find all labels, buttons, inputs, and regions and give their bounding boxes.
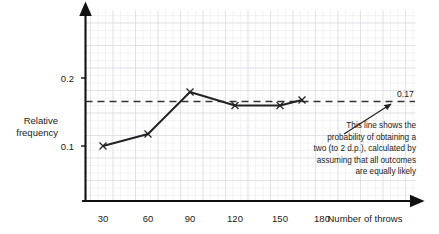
annotation-line-2: two (to 2 d.p.), calculated by bbox=[314, 144, 417, 153]
annotation-line-0: This line shows the bbox=[346, 121, 416, 130]
y-tick-label-1: 0.2 bbox=[61, 73, 74, 84]
y-axis-label-line2: frequency bbox=[16, 127, 58, 138]
y-tick-label-0: 0.1 bbox=[61, 141, 74, 152]
annotation-line-1: probability of obtaining a bbox=[327, 133, 416, 142]
x-tick-label-1: 60 bbox=[143, 213, 154, 224]
annotation-line-4: are equally likely bbox=[355, 167, 416, 176]
x-tick-label-0: 30 bbox=[98, 213, 109, 224]
x-axis-label: Number of throws bbox=[328, 213, 403, 224]
x-tick-label-3: 120 bbox=[227, 213, 243, 224]
relative-frequency-chart: 0.17 0.1 0.2 Relative frequency 30 60 90… bbox=[0, 0, 439, 234]
x-tick-label-2: 90 bbox=[185, 213, 196, 224]
y-axis-label-line1: Relative bbox=[24, 115, 58, 126]
x-tick-label-4: 150 bbox=[272, 213, 288, 224]
reference-line-value-label: 0.17 bbox=[397, 89, 414, 99]
annotation-line-3: assuming that all outcomes bbox=[317, 156, 416, 165]
chart-svg: 0.17 0.1 0.2 Relative frequency 30 60 90… bbox=[0, 0, 439, 234]
